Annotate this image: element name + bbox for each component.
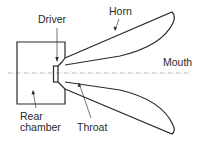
upper-horn [65,12,174,65]
throat-leader [79,83,91,118]
driver-connector [58,58,65,89]
horn-loudspeaker-diagram: Driver Horn Mouth Rear chamber Throat [0,0,208,150]
rear-chamber-label-line2: chamber [20,121,61,133]
mouth-label: Mouth [163,56,192,68]
driver-arrowhead [55,57,58,62]
rear-chamber-arrowhead [32,90,36,95]
driver-label: Driver [38,13,67,25]
throat-label: Throat [77,121,107,133]
horn-arrowhead [114,27,118,32]
driver-element [54,66,59,82]
horn-label: Horn [109,5,132,17]
